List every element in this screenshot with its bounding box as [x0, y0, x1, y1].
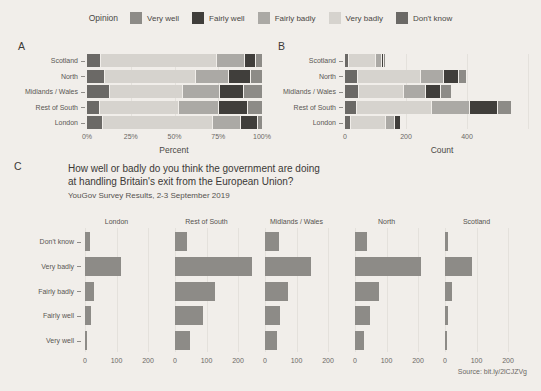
category-label-midlands-wales: Midlands / Wales — [18, 85, 78, 98]
stacked-bar-rest-of-south — [345, 101, 511, 114]
bar-segment-very-badly — [357, 70, 420, 83]
legend-item-fairly-badly: Fairly badly — [258, 12, 316, 24]
x-tick-label: 200 — [232, 357, 244, 364]
bar-segment-very-well — [257, 116, 262, 129]
facet-bar-midlands-wales-fairly-badly — [265, 282, 288, 301]
legend-swatch-don-t-know — [396, 12, 408, 24]
bar-segment-fairly-well — [228, 70, 250, 83]
bar-segment-fairly-badly — [195, 70, 228, 83]
bar-segment-fairly-well — [244, 54, 255, 67]
x-tick-label: 25% — [124, 133, 138, 140]
panel-b-letter: B — [278, 40, 285, 52]
y-axis-tick — [77, 341, 81, 342]
category-label-scotland: Scotland — [18, 54, 78, 67]
x-tick-label: 200 — [322, 357, 334, 364]
gridline — [238, 228, 239, 352]
bar-segment-fairly-badly — [431, 101, 469, 114]
gridline — [477, 228, 478, 352]
bar-segment-very-well — [497, 101, 511, 114]
y-axis-tick — [339, 76, 343, 77]
bar-segment-very-well — [243, 85, 262, 98]
bar-segment-fairly-well — [219, 85, 244, 98]
panel-c-letter: C — [14, 160, 22, 172]
x-tick-label: 100 — [201, 357, 213, 364]
facet-bar-scotland-very-well — [445, 331, 447, 350]
legend-swatch-very-well — [130, 12, 142, 24]
legend-item-label: Don't know — [413, 14, 452, 23]
bar-segment-very-well — [458, 70, 467, 83]
bar-segment-very-badly — [104, 70, 196, 83]
stacked-bar-london — [345, 116, 401, 129]
y-axis-tick — [77, 242, 81, 243]
legend-swatch-very-badly — [329, 12, 341, 24]
category-label-scotland: Scotland — [278, 54, 336, 67]
bar-segment-fairly-badly — [216, 54, 244, 67]
gridline — [117, 228, 118, 352]
x-tick-label: 50% — [167, 133, 181, 140]
legend-item-label: Very badly — [346, 14, 383, 23]
facet-bar-north-don-t-know — [355, 232, 367, 251]
bar-segment-don-t-know — [87, 85, 109, 98]
panel-c: C How well or badly do you think the gov… — [14, 160, 527, 388]
x-tick-label: 0 — [263, 357, 267, 364]
facet-bar-rest-of-south-fairly-well — [175, 306, 203, 325]
bar-segment-fairly-badly — [178, 101, 218, 114]
facet-bar-midlands-wales-very-badly — [265, 257, 311, 276]
legend-item-very-well: Very well — [130, 12, 179, 24]
stacked-bar-north — [87, 70, 262, 83]
stacked-bar-midlands-wales — [87, 85, 262, 98]
x-tick-label: 200 — [142, 357, 154, 364]
facet-bar-rest-of-south-fairly-badly — [175, 282, 215, 301]
category-label-north: North — [18, 70, 78, 83]
facet-bar-north-fairly-badly — [355, 282, 379, 301]
category-label-very-well: Very well — [14, 331, 74, 350]
legend-item-fairly-well: Fairly well — [192, 12, 245, 24]
category-label-rest-of-south: Rest of South — [18, 101, 78, 114]
y-axis-tick — [339, 61, 343, 62]
gridline — [387, 228, 388, 352]
facet-bar-london-don-t-know — [85, 232, 90, 251]
stacked-bar-london — [87, 116, 262, 129]
category-label-north: North — [278, 70, 336, 83]
facet-bar-london-fairly-badly — [85, 282, 94, 301]
x-tick-label: 0% — [82, 133, 92, 140]
facet-label-north: North — [355, 198, 418, 226]
y-axis-tick — [81, 107, 85, 108]
stacked-bar-scotland — [345, 54, 385, 67]
x-tick-label: 400 — [461, 133, 473, 140]
x-tick-label: 0 — [173, 357, 177, 364]
source-caption: Source: bit.ly/2lCJZVg — [458, 368, 527, 375]
bar-segment-fairly-badly — [182, 85, 219, 98]
y-axis-tick — [339, 123, 343, 124]
y-axis-tick — [77, 266, 81, 267]
gridline — [297, 228, 298, 352]
facet-bar-midlands-wales-fairly-well — [265, 306, 280, 325]
bar-segment-don-t-know — [87, 54, 100, 67]
legend-item-label: Fairly badly — [275, 14, 316, 23]
y-axis-tick — [81, 92, 85, 93]
figure: Opinion Very wellFairly wellFairly badly… — [0, 0, 541, 391]
bar-segment-very-badly — [102, 116, 211, 129]
panel-c-title: How well or badly do you think the gover… — [68, 162, 320, 188]
legend-title: Opinion — [89, 13, 118, 23]
legend-item-don-t-know: Don't know — [396, 12, 452, 24]
category-label-london: London — [278, 116, 336, 129]
facet-label-scotland: Scotland — [445, 198, 508, 226]
x-tick-label: 0 — [353, 357, 357, 364]
x-tick-label: 200 — [400, 133, 412, 140]
facet-bar-scotland-fairly-badly — [445, 282, 452, 301]
gridline — [418, 228, 419, 352]
bar-segment-fairly-well — [469, 101, 496, 114]
bar-segment-fairly-badly — [420, 70, 443, 83]
facet-bar-rest-of-south-very-well — [175, 331, 190, 350]
facet-bar-london-fairly-well — [85, 306, 91, 325]
gridline — [528, 54, 529, 129]
stacked-bar-midlands-wales — [345, 85, 451, 98]
bar-segment-fairly-badly — [212, 116, 241, 129]
facet-bar-midlands-wales-very-well — [265, 331, 277, 350]
facet-bar-north-very-well — [355, 331, 364, 350]
bar-segment-fairly-well — [425, 85, 440, 98]
bar-segment-fairly-well — [218, 101, 247, 114]
panel-a-letter: A — [18, 40, 25, 52]
bar-segment-don-t-know — [345, 101, 356, 114]
